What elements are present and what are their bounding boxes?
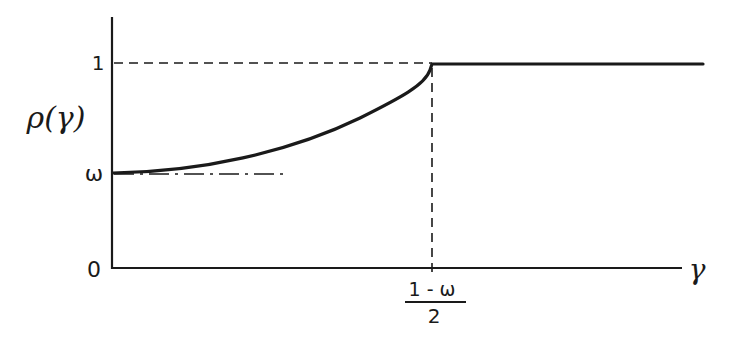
x-tick-denominator: 2 (428, 304, 441, 328)
y-tick-omega: ω (85, 161, 103, 186)
y-tick-zero: 0 (87, 257, 101, 282)
y-tick-one: 1 (92, 51, 105, 75)
rho-curve (113, 64, 703, 173)
rho-gamma-chart: 1 ω 0 ρ(γ) γ 1 - ω 2 (0, 0, 733, 341)
x-axis-title: γ (689, 253, 706, 286)
x-tick-numerator: 1 - ω (409, 278, 456, 300)
y-axis-title: ρ(γ) (26, 100, 86, 135)
